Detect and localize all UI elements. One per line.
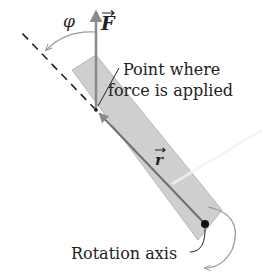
phi-label: φ <box>63 11 75 31</box>
force-label: F <box>100 12 116 34</box>
rotation-axis-point <box>201 220 209 228</box>
bar-highlight <box>172 130 262 184</box>
torque-diagram: φ F Point where force is applied r Rotat… <box>0 0 262 275</box>
application-point <box>94 108 98 112</box>
point-label-line1: Point where <box>123 60 220 79</box>
rotation-axis-label: Rotation axis <box>71 244 177 263</box>
phi-angle-arc <box>46 32 95 50</box>
r-label: r <box>155 151 164 169</box>
point-label-line2: force is applied <box>108 81 233 100</box>
